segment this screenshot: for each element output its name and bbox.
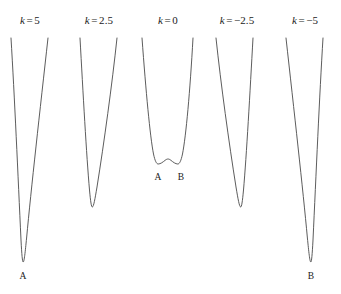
panel-title-operator: = [225, 14, 234, 26]
panel-title-operator: = [297, 14, 306, 26]
panel-title-operator: = [90, 14, 99, 26]
panel-title-k-0: k=0 [158, 14, 178, 26]
curve-k-5 [11, 38, 48, 262]
panel-title-value: 5 [34, 14, 40, 26]
curve-k--2.5 [216, 38, 253, 207]
curves-canvas [0, 0, 341, 294]
potential-curves-figure: k=5 k=2.5 k=0 k=−2.5 k=−5 A A B B [0, 0, 341, 294]
well-label-b-panel-k--5: B [308, 271, 314, 281]
panel-title-operator: = [163, 14, 172, 26]
panel-title-k--5: k=−5 [292, 14, 318, 26]
curve-k-0 [142, 38, 193, 164]
panel-title-value: 0 [172, 14, 178, 26]
panel-title-value: −2.5 [234, 14, 254, 26]
panel-title-operator: = [25, 14, 34, 26]
well-label-b-panel-k-0: B [178, 172, 184, 182]
panel-title-k--2.5: k=−2.5 [220, 14, 255, 26]
panel-title-value: −5 [306, 14, 318, 26]
curve-k-2.5 [80, 38, 117, 207]
curve-group [11, 38, 323, 262]
curve-k--5 [286, 38, 323, 262]
well-label-a-panel-k-0: A [155, 172, 162, 182]
well-label-a-panel-k-5: A [20, 271, 27, 281]
panel-title-k-5: k=5 [20, 14, 40, 26]
panel-title-value: 2.5 [99, 14, 113, 26]
panel-title-k-2.5: k=2.5 [85, 14, 113, 26]
